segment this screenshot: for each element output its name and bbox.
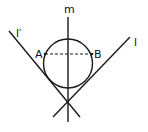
label-A: A <box>35 48 43 61</box>
label-l-prime: l′ <box>16 27 22 40</box>
line-l-prime <box>9 31 80 117</box>
point-A <box>44 53 47 56</box>
geometry-diagram: m l′ l A B <box>0 0 148 132</box>
line-l <box>53 37 130 117</box>
label-B: B <box>94 48 102 61</box>
point-B <box>91 53 94 56</box>
label-m: m <box>64 3 75 16</box>
label-l: l <box>134 36 137 49</box>
